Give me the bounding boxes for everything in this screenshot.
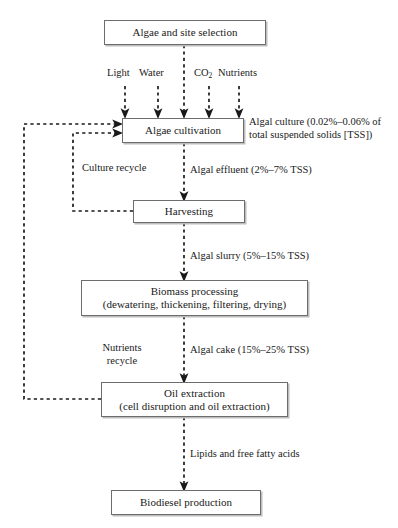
edge-label-culture-recycle: Culture recycle xyxy=(82,161,146,174)
input-label-co2: CO2 xyxy=(194,66,212,80)
edge-label-lipids: Lipids and free fatty acids xyxy=(190,447,300,460)
flowchart-canvas: Algae and site selection Algae cultivati… xyxy=(0,0,398,528)
node-harvesting-label: Harvesting xyxy=(165,205,213,218)
input-label-co2-subscript: 2 xyxy=(209,71,213,80)
input-label-water: Water xyxy=(139,66,164,79)
edge-label-culture-recycle-text: Culture recycle xyxy=(82,162,146,173)
node-biodiesel-production-label: Biodiesel production xyxy=(140,496,232,509)
input-label-co2-text: CO xyxy=(194,67,209,78)
node-oil-extraction-label-line2: (cell disruption and oil extraction) xyxy=(119,400,269,413)
edge-label-algal-slurry: Algal slurry (5%–15% TSS) xyxy=(190,249,309,262)
edge-label-algal-cake: Algal cake (15%–25% TSS) xyxy=(190,343,309,356)
edge-label-lipids-text: Lipids and free fatty acids xyxy=(190,448,300,459)
edge-label-algal-culture-line1: Algal culture (0.02%–0.06% of xyxy=(249,116,381,127)
node-site-selection-label: Algae and site selection xyxy=(133,26,238,39)
node-site-selection[interactable]: Algae and site selection xyxy=(104,20,266,45)
edge-label-algal-effluent: Algal effluent (2%–7% TSS) xyxy=(190,163,312,176)
edge-label-algal-effluent-text: Algal effluent (2%–7% TSS) xyxy=(190,164,312,175)
node-algae-cultivation-label: Algae cultivation xyxy=(145,124,221,137)
node-biodiesel-production[interactable]: Biodiesel production xyxy=(111,490,261,515)
node-harvesting[interactable]: Harvesting xyxy=(133,200,245,223)
node-biomass-processing-label-line1: Biomass processing xyxy=(151,285,239,298)
node-algae-cultivation[interactable]: Algae cultivation xyxy=(122,118,244,143)
edge-label-nutrients-recycle: Nutrients recycle xyxy=(87,341,157,367)
node-biomass-processing-label-line2: (dewatering, thickening, filtering, dryi… xyxy=(103,298,286,311)
input-label-water-text: Water xyxy=(139,67,164,78)
edge-label-nutrients-recycle-line1: Nutrients xyxy=(102,342,141,353)
edge-label-algal-culture: Algal culture (0.02%–0.06% of total susp… xyxy=(249,115,395,141)
edge-label-algal-slurry-text: Algal slurry (5%–15% TSS) xyxy=(190,250,309,261)
edge-label-algal-cake-text: Algal cake (15%–25% TSS) xyxy=(190,344,309,355)
input-label-light: Light xyxy=(107,66,130,79)
node-biomass-processing[interactable]: Biomass processing (dewatering, thickeni… xyxy=(81,280,308,316)
edge-label-nutrients-recycle-line2: recycle xyxy=(107,355,137,366)
input-label-light-text: Light xyxy=(107,67,130,78)
input-label-nutrients-text: Nutrients xyxy=(218,67,257,78)
input-label-nutrients: Nutrients xyxy=(218,66,257,79)
node-oil-extraction-label-line1: Oil extraction xyxy=(164,387,225,400)
edge-label-algal-culture-line2: total suspended solids [TSS]) xyxy=(249,129,372,140)
node-oil-extraction[interactable]: Oil extraction (cell disruption and oil … xyxy=(101,382,288,417)
